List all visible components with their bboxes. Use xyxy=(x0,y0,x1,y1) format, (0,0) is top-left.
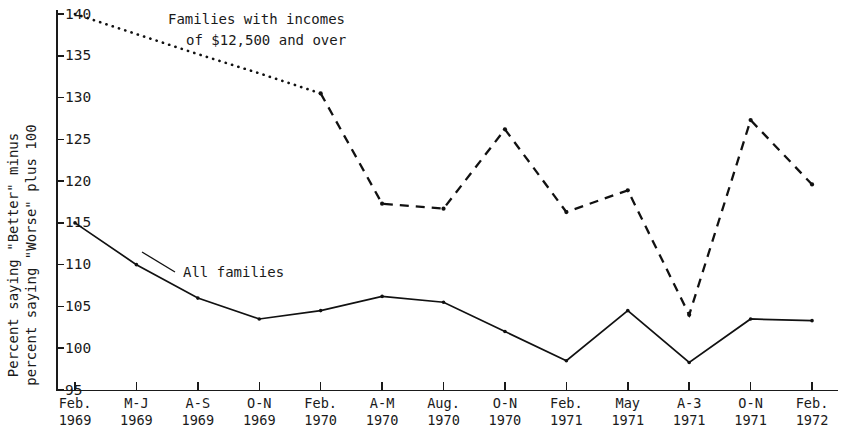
x-tick-label-month: M-J xyxy=(124,395,149,411)
x-tick-label-month: Feb. xyxy=(304,395,337,411)
x-axis-ticks xyxy=(75,382,812,390)
all-families-data-point xyxy=(565,359,569,363)
high-income-data-point xyxy=(441,207,445,211)
all-families-label-line1: All families xyxy=(183,264,284,280)
x-tick-label-year: 1969 xyxy=(181,412,214,428)
high-income-data-point xyxy=(626,188,630,192)
all-families-leader-line xyxy=(142,252,175,272)
line-chart: Percent saying "Better" minus percent sa… xyxy=(0,0,842,434)
all-families-data-point xyxy=(319,309,323,313)
y-tick-label: 115 xyxy=(65,214,91,230)
all-families-data-point xyxy=(810,319,814,323)
all-families-data-point xyxy=(687,361,691,365)
all-families-data-point xyxy=(442,300,446,304)
high-income-dashed-segment xyxy=(321,93,812,314)
high-income-data-point xyxy=(319,91,323,95)
x-tick-label-month: O-N xyxy=(493,395,518,411)
high-income-label-line2: of $12,500 and over xyxy=(186,32,346,48)
y-axis-ticks: 95100105110115120125130135140 xyxy=(57,6,91,398)
y-axis-title-line1: Percent saying "Better" minus xyxy=(5,133,21,377)
x-tick-label-year: 1971 xyxy=(611,412,644,428)
x-axis-tick-labels: Feb.1969M-J1969A-S1969O-N1969Feb.1970A-M… xyxy=(59,395,829,428)
y-tick-label: 125 xyxy=(65,131,91,147)
x-tick-label-month: A-S xyxy=(186,395,211,411)
y-tick-label: 135 xyxy=(65,47,91,63)
all-families-data-point xyxy=(503,330,507,334)
x-tick-label-year: 1971 xyxy=(734,412,767,428)
x-tick-label-year: 1969 xyxy=(243,412,276,428)
all-families-data-point xyxy=(257,317,261,321)
x-tick-label-year: 1969 xyxy=(59,412,92,428)
high-income-data-point xyxy=(380,202,384,206)
x-tick-label-year: 1970 xyxy=(304,412,337,428)
x-tick-label-year: 1971 xyxy=(550,412,583,428)
all-families-data-point xyxy=(135,263,139,267)
x-tick-label-year: 1970 xyxy=(366,412,399,428)
y-axis-title: Percent saying "Better" minus percent sa… xyxy=(5,124,39,385)
x-tick-label-month: O-N xyxy=(738,395,763,411)
all-families-data-point xyxy=(749,317,753,321)
high-income-data-point xyxy=(749,118,753,122)
x-tick-label-month: Aug. xyxy=(427,395,460,411)
all-families-data-point xyxy=(626,309,630,313)
all-families-line xyxy=(75,223,812,363)
y-tick-label: 120 xyxy=(65,173,91,189)
x-tick-label-year: 1971 xyxy=(673,412,706,428)
x-tick-label-month: A-3 xyxy=(677,395,702,411)
x-tick-label-year: 1972 xyxy=(796,412,829,428)
all-families-data-point xyxy=(196,296,200,300)
x-tick-label-year: 1970 xyxy=(489,412,522,428)
y-tick-label: 110 xyxy=(65,256,91,272)
high-income-label-line1: Families with incomes xyxy=(168,11,345,27)
all-families-data-point xyxy=(380,295,384,299)
high-income-data-point xyxy=(503,127,507,131)
x-tick-label-month: May xyxy=(615,395,640,411)
x-tick-label-year: 1970 xyxy=(427,412,460,428)
x-tick-label-month: O-N xyxy=(247,395,272,411)
high-income-data-point xyxy=(687,313,691,317)
y-axis-title-line2: percent saying "Worse" plus 100 xyxy=(23,124,39,385)
all-families-data-point xyxy=(73,221,77,225)
high-income-data-point xyxy=(564,210,568,214)
x-tick-label-month: Feb. xyxy=(550,395,583,411)
chart-annotations: Families with incomesof $12,500 and over… xyxy=(142,11,346,280)
y-tick-label: 100 xyxy=(65,340,91,356)
y-tick-label: 105 xyxy=(65,298,91,314)
series-all-families xyxy=(73,221,814,364)
y-tick-label: 130 xyxy=(65,89,91,105)
x-tick-label-month: Feb. xyxy=(796,395,829,411)
x-tick-label-month: Feb. xyxy=(59,395,92,411)
high-income-data-point xyxy=(810,182,814,186)
chart-plot-area: Percent saying "Better" minus percent sa… xyxy=(0,0,842,434)
x-tick-label-month: A-M xyxy=(370,395,395,411)
x-tick-label-year: 1969 xyxy=(120,412,153,428)
